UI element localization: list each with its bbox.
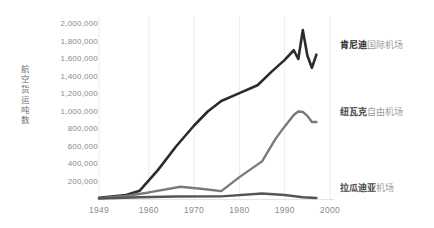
series-label-strong: 肯尼迪 <box>340 40 367 50</box>
series-label-light: 国际机场 <box>367 40 403 50</box>
series-label-1: 纽瓦克自由机场 <box>340 107 403 117</box>
series-line-0 <box>99 30 316 198</box>
series-label-strong: 纽瓦克 <box>340 107 367 117</box>
x-tick-label: 1970 <box>184 206 204 215</box>
x-tick-label: 1949 <box>89 206 109 215</box>
x-tick-label: 1960 <box>139 206 159 215</box>
series-label-strong: 拉瓜迪亚 <box>340 183 376 193</box>
series-label-light: 自由机场 <box>367 107 403 117</box>
series-line-1 <box>99 112 316 199</box>
x-axis-tick-labels: 194919601970198019902000 <box>0 206 434 222</box>
series-label-2: 拉瓜迪亚机场 <box>340 183 394 193</box>
series-label-light: 机场 <box>376 183 394 193</box>
x-tick-label: 1990 <box>275 206 295 215</box>
chart-container: 航空货运吨数 200,000400,000600,000800,0001,000… <box>0 0 434 228</box>
x-tick-label: 2000 <box>320 206 340 215</box>
series-label-0: 肯尼迪国际机场 <box>340 40 403 50</box>
series-lines <box>99 30 316 198</box>
x-tick-label: 1980 <box>229 206 249 215</box>
